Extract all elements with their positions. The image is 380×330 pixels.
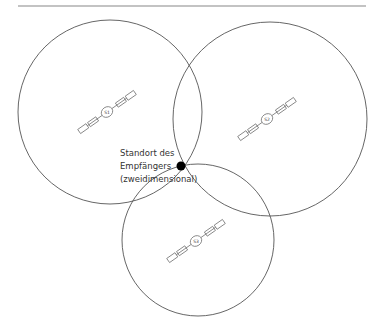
satellite-icon-s1: S1 xyxy=(76,88,137,135)
svg-text:S2: S2 xyxy=(264,117,270,122)
svg-text:S3: S3 xyxy=(193,239,199,244)
label-line-3: (zweidimensional) xyxy=(120,173,197,186)
satellite-icon-s2: S2 xyxy=(236,95,297,142)
label-line-1: Standort des xyxy=(120,147,197,160)
receiver-location-label: Standort des Empfängers (zweidimensional… xyxy=(120,147,197,186)
satellite-icon-s3: S3 xyxy=(165,217,226,264)
label-line-2: Empfängers xyxy=(120,160,197,173)
svg-text:S1: S1 xyxy=(104,110,110,115)
